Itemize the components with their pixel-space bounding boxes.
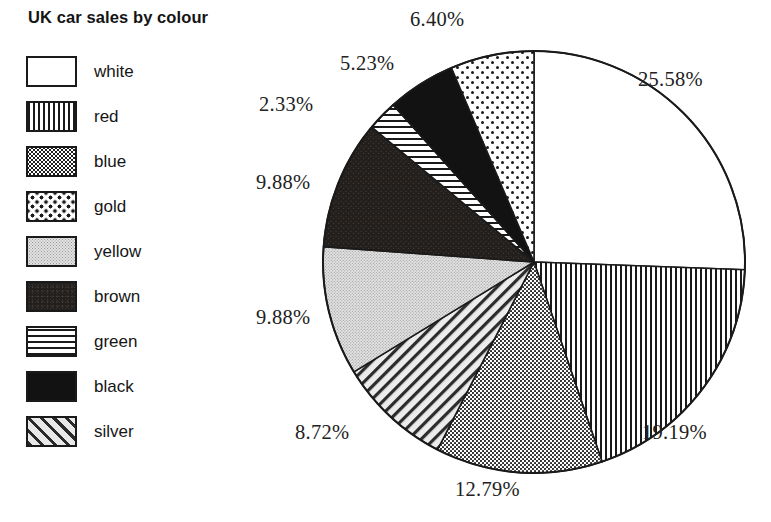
pct-label-green: 2.33% (259, 93, 313, 116)
legend-item-gold[interactable]: gold (22, 184, 252, 229)
legend-label-brown: brown (94, 288, 140, 305)
swatch-yellow-icon (26, 236, 77, 267)
pct-label-black: 5.23% (340, 52, 394, 75)
swatch-white-icon (26, 56, 77, 87)
swatch-green-icon (26, 326, 77, 357)
legend-item-black[interactable]: black (22, 364, 252, 409)
legend-item-red[interactable]: red (22, 94, 252, 139)
swatch-gold-icon (26, 191, 77, 222)
legend: UK car sales by colour white red blue go… (22, 8, 252, 454)
legend-item-yellow[interactable]: yellow (22, 229, 252, 274)
pct-label-silver: 8.72% (295, 421, 349, 444)
legend-label-blue: blue (94, 153, 126, 170)
swatch-brown-icon (26, 281, 77, 312)
legend-label-gold: gold (94, 198, 126, 215)
swatch-black-icon (26, 371, 77, 402)
pct-label-red: 19.19% (642, 421, 707, 444)
legend-list: white red blue gold yellow brown (22, 49, 252, 454)
pie-slices (323, 51, 745, 473)
pie-chart: 6.40% 5.23% 2.33% 9.88% 9.88% 8.72% 12.7… (260, 0, 771, 522)
legend-item-brown[interactable]: brown (22, 274, 252, 319)
swatch-red-icon (26, 101, 77, 132)
legend-label-green: green (94, 333, 137, 350)
swatch-silver-icon (26, 416, 77, 447)
pct-label-brown: 9.88% (256, 171, 310, 194)
legend-label-black: black (94, 378, 134, 395)
legend-label-silver: silver (94, 423, 134, 440)
chart-page: UK car sales by colour white red blue go… (0, 0, 771, 522)
legend-item-blue[interactable]: blue (22, 139, 252, 184)
legend-label-white: white (94, 63, 134, 80)
pct-label-blue: 12.79% (455, 478, 520, 501)
pct-label-white: 25.58% (638, 68, 703, 91)
legend-item-green[interactable]: green (22, 319, 252, 364)
chart-title: UK car sales by colour (28, 8, 252, 27)
legend-label-red: red (94, 108, 119, 125)
legend-item-white[interactable]: white (22, 49, 252, 94)
swatch-blue-icon (26, 146, 77, 177)
legend-label-yellow: yellow (94, 243, 141, 260)
legend-item-silver[interactable]: silver (22, 409, 252, 454)
pct-label-yellow: 9.88% (256, 306, 310, 329)
pct-label-gold: 6.40% (410, 8, 464, 31)
